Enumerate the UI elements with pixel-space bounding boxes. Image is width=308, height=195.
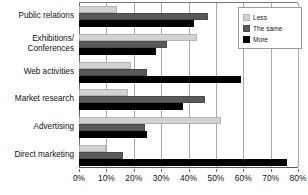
x-tick <box>189 169 190 172</box>
bar-less <box>79 89 128 96</box>
bar-more <box>79 20 194 27</box>
bar-group <box>79 58 298 86</box>
x-tick-label: 30% <box>153 173 170 183</box>
category-label-line: Direct marketing <box>0 150 74 159</box>
bar-less <box>79 117 221 124</box>
legend-label: The same <box>253 25 282 32</box>
legend-item: The same <box>243 23 298 33</box>
x-tick-label: 70% <box>262 173 279 183</box>
bar-more <box>79 48 156 55</box>
category-label: Exhibitions/Conferences <box>0 34 74 52</box>
bar-less <box>79 6 117 13</box>
x-tick <box>216 169 217 172</box>
category-label-line: Market research <box>0 94 74 103</box>
legend-swatch-less <box>243 14 250 21</box>
x-tick <box>298 169 299 172</box>
category-label: Advertising <box>0 122 74 131</box>
category-label: Web activities <box>0 67 74 76</box>
bar-less <box>79 34 197 41</box>
x-tick <box>243 169 244 172</box>
bar-group <box>79 141 298 169</box>
category-label: Market research <box>0 94 74 103</box>
category-label-line: Conferences <box>0 44 74 53</box>
x-tick <box>134 169 135 172</box>
bar-more <box>79 159 287 166</box>
bar-same <box>79 96 205 103</box>
bar-more <box>79 103 183 110</box>
bar-group <box>79 114 298 142</box>
bar-same <box>79 13 208 20</box>
x-tick-label: 0% <box>73 173 85 183</box>
bar-same <box>79 69 147 76</box>
x-tick-label: 40% <box>180 173 197 183</box>
x-tick-label: 10% <box>98 173 115 183</box>
bar-group <box>79 86 298 114</box>
category-label-line: Public relations <box>0 11 74 20</box>
category-axis: Public relationsExhibitions/ConferencesW… <box>0 0 78 168</box>
bar-more <box>79 131 147 138</box>
x-tick <box>106 169 107 172</box>
bar-more <box>79 76 241 83</box>
legend-item: More <box>243 34 298 44</box>
legend-swatch-more <box>243 36 250 43</box>
bar-same <box>79 124 145 131</box>
x-tick <box>161 169 162 172</box>
category-label: Public relations <box>0 11 74 20</box>
chart-legend: LessThe sameMore <box>238 7 302 49</box>
x-tick-label: 60% <box>235 173 252 183</box>
legend-item: Less <box>243 12 298 22</box>
category-label: Direct marketing <box>0 150 74 159</box>
category-label-line: Web activities <box>0 67 74 76</box>
legend-swatch-same <box>243 25 250 32</box>
x-tick-label: 80% <box>290 173 307 183</box>
legend-label: More <box>253 36 268 43</box>
category-label-line: Advertising <box>0 122 74 131</box>
x-tick <box>271 169 272 172</box>
bar-less <box>79 62 131 69</box>
x-tick-label: 20% <box>125 173 142 183</box>
legend-label: Less <box>253 14 267 21</box>
bar-same <box>79 152 123 159</box>
x-tick <box>79 169 80 172</box>
x-axis: 0%10%20%30%40%50%60%70%80% <box>79 169 298 193</box>
category-label-line: Exhibitions/ <box>0 34 74 43</box>
x-tick-label: 50% <box>207 173 224 183</box>
bar-same <box>79 41 167 48</box>
bar-less <box>79 145 106 152</box>
grouped-bar-chart: Public relationsExhibitions/ConferencesW… <box>0 0 308 195</box>
